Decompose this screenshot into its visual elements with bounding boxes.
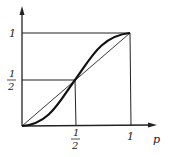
- right-border: [130, 33, 131, 126]
- x-axis-label: p: [153, 133, 160, 146]
- x-half-guide: [75, 80, 76, 126]
- x-axis: [22, 125, 152, 126]
- x-one-label: 1: [127, 130, 134, 143]
- x-axis-arrow-icon: [148, 123, 157, 128]
- y-half-den: 2: [7, 81, 14, 92]
- probability-diagram: 1 1 2 1 2 1 p: [0, 0, 172, 157]
- x-half-num: 1: [73, 127, 79, 138]
- y-one-label: 1: [9, 27, 16, 40]
- y-half-num: 1: [9, 68, 15, 79]
- x-half-den: 2: [71, 140, 78, 151]
- y-axis-arrow-icon: [20, 6, 25, 15]
